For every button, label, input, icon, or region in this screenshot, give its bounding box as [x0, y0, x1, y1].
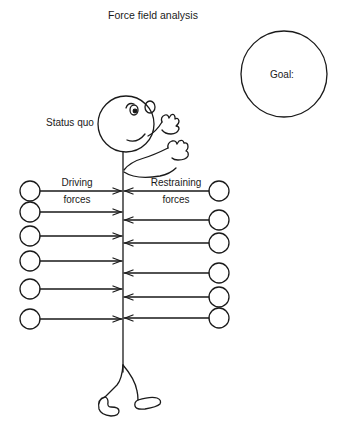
restraining-force-3: [124, 233, 229, 253]
stick-figure: [98, 96, 188, 416]
restraining-force-6: [124, 308, 229, 328]
restraining-force-5: [124, 287, 229, 307]
lower-arm: [124, 148, 176, 177]
driving-forces-label: Driving forces: [52, 177, 102, 206]
force-field-diagram: [0, 0, 342, 438]
status-quo-label: Status quo: [46, 117, 94, 129]
upper-hand: [161, 114, 179, 134]
driving-label-line2: forces: [52, 194, 102, 206]
pupil: [133, 109, 137, 113]
goal-label: Goal:: [270, 69, 294, 81]
lower-hand: [168, 140, 188, 160]
left-leg: [105, 365, 123, 397]
driving-force-6: [20, 309, 122, 329]
left-foot: [99, 397, 119, 416]
right-leg: [123, 365, 138, 400]
driving-label-line1: Driving: [52, 177, 102, 189]
driving-force-3: [20, 226, 122, 246]
restraining-label-line2: forces: [146, 194, 206, 206]
restraining-label-line1: Restraining: [146, 177, 206, 189]
right-foot: [135, 397, 161, 409]
ear: [145, 101, 155, 113]
upper-arm: [148, 122, 162, 136]
restraining-force-4: [124, 263, 229, 283]
restraining-force-2: [124, 210, 229, 230]
driving-force-5: [20, 279, 122, 299]
restraining-forces-label: Restraining forces: [146, 177, 206, 206]
driving-force-4: [20, 251, 122, 271]
smile: [127, 134, 145, 141]
diagram-title: Force field analysis: [0, 9, 306, 21]
